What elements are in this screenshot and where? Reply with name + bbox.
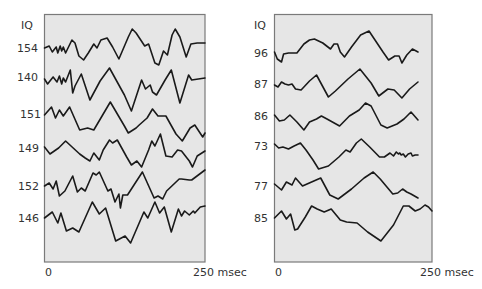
right-row-label-6: 85 (254, 212, 268, 225)
left-row-label-4: 149 (18, 142, 39, 155)
right-panel: IQ 96 87 86 73 77 85 0 250 msec (254, 15, 474, 280)
left-row-label-5: 152 (18, 180, 39, 193)
left-row-label-1: 154 (17, 42, 38, 55)
right-x-start-label: 0 (275, 266, 282, 279)
left-panel: IQ 154 140 151 149 152 146 0 250 msec (17, 15, 247, 280)
erp-waveform-chart: IQ 154 140 151 149 152 146 0 250 msec IQ… (0, 0, 482, 289)
right-row-label-4: 73 (254, 140, 268, 153)
left-x-start-label: 0 (45, 266, 52, 279)
right-row-label-5: 77 (254, 180, 268, 193)
right-row-label-1: 96 (254, 47, 268, 60)
right-row-label-3: 86 (254, 110, 268, 123)
right-axis-title: IQ (254, 19, 266, 32)
right-row-label-2: 87 (254, 78, 268, 91)
left-x-end-label: 250 msec (193, 266, 247, 279)
right-x-end-label: 250 msec (420, 266, 474, 279)
left-axis-title: IQ (21, 19, 33, 32)
left-row-label-3: 151 (20, 108, 41, 121)
left-panel-plot-area (45, 15, 206, 263)
left-row-label-2: 140 (17, 71, 38, 84)
left-row-label-6: 146 (18, 212, 39, 225)
